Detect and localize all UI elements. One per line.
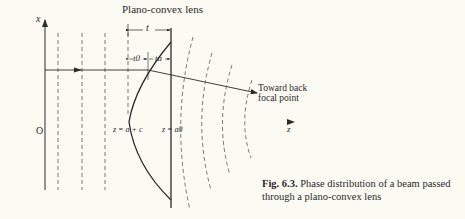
incident-wavefronts <box>58 33 128 190</box>
lens-curved-surface <box>129 42 171 200</box>
ta-label: ta <box>155 53 162 63</box>
figure-caption: Fig. 6.3. Phase distribution of a beam p… <box>262 177 462 203</box>
lens-title: Plano-convex lens <box>122 3 203 15</box>
figure-number: Fig. 6.3. <box>262 178 298 189</box>
outgoing-wavefronts <box>181 37 252 210</box>
flat-side-position-label: z = a0 <box>162 125 183 134</box>
thickness-label: t <box>146 22 149 33</box>
t0-label: t0 <box>133 53 140 63</box>
origin-label: O <box>36 125 43 136</box>
ray-annotation: Toward back focal point <box>258 83 307 103</box>
vertex-position-label: z = a + c <box>113 125 142 134</box>
refracted-ray <box>148 70 257 93</box>
x-axis-label: x <box>36 13 40 24</box>
z-axis-label: z <box>287 124 291 134</box>
